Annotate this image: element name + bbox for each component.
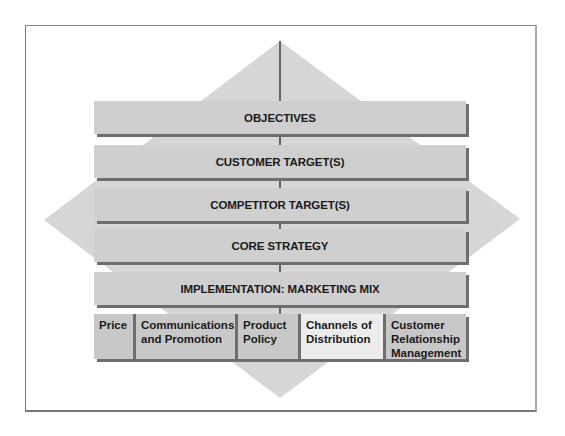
mix-channels-distribution: Channels of Distribution bbox=[301, 314, 386, 359]
layer-implementation: IMPLEMENTATION: MARKETING MIX bbox=[94, 272, 466, 305]
mix-communications-promotion: Communications and Promotion bbox=[136, 314, 238, 359]
connector-line bbox=[279, 137, 281, 145]
connector-line bbox=[279, 265, 281, 272]
marketing-mix-row: Price Communications and Promotion Produ… bbox=[94, 314, 466, 359]
mix-price: Price bbox=[94, 314, 136, 359]
layer-customer-targets: CUSTOMER TARGET(S) bbox=[94, 145, 466, 178]
connector-line bbox=[279, 181, 281, 188]
mix-customer-relationship-management: Customer Relationship Management bbox=[386, 314, 466, 359]
layer-objectives: OBJECTIVES bbox=[94, 101, 466, 134]
layer-competitor-targets: COMPETITOR TARGET(S) bbox=[94, 188, 466, 221]
layer-core-strategy: CORE STRATEGY bbox=[94, 229, 466, 262]
mix-product-policy: Product Policy bbox=[238, 314, 301, 359]
